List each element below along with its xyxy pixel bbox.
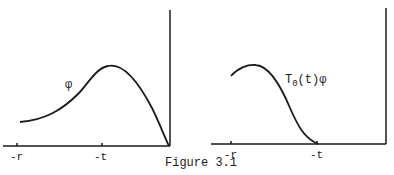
- phi-label: φ: [65, 78, 72, 92]
- t0-phi-label-subscript: 0: [292, 79, 297, 89]
- t0-phi-label: T0(t)φ: [285, 73, 326, 87]
- right-tick-label-t: -t: [310, 149, 323, 161]
- t0-phi-label-rest: (t)φ: [298, 73, 327, 87]
- left-tick-label-t: -t: [94, 151, 107, 163]
- figure-caption: Figure 3.1: [165, 156, 237, 170]
- figure-3-1: φ -r -t T0(t)φ -r -t Figure 3.1: [0, 0, 394, 175]
- figure-plots: [0, 0, 394, 175]
- left-tick-label-r: -r: [10, 151, 23, 163]
- left-panel: [3, 10, 170, 146]
- phi-curve: [20, 66, 169, 146]
